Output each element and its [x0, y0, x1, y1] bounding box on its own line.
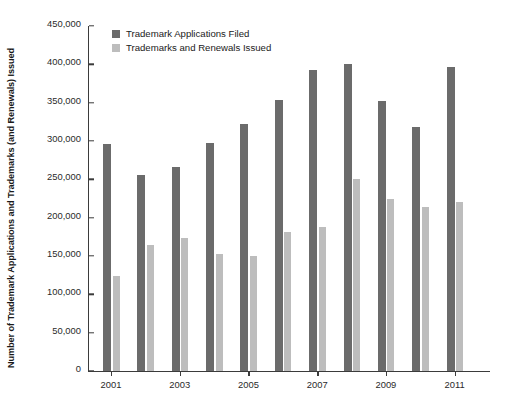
- x-tick-label: 2001: [101, 379, 122, 390]
- bar-group: [447, 26, 481, 371]
- bar-chart: Number of Trademark Applications and Tra…: [0, 0, 523, 412]
- bar-group: [412, 26, 446, 371]
- y-tick-label: 50,000: [52, 325, 81, 336]
- y-tick-label: 250,000: [47, 172, 81, 183]
- bar: [172, 167, 180, 371]
- legend-item[interactable]: Trademark Applications Filed: [112, 28, 271, 39]
- bar: [284, 232, 291, 371]
- bar: [447, 67, 455, 371]
- bar: [378, 101, 386, 371]
- bar: [412, 127, 420, 371]
- x-tick-label: 2007: [307, 379, 328, 390]
- bar-group: [206, 26, 240, 371]
- bar: [319, 227, 326, 371]
- x-tick-label: 2009: [375, 379, 396, 390]
- legend-item[interactable]: Trademarks and Renewals Issued: [112, 42, 271, 53]
- legend-swatch-icon: [112, 44, 120, 52]
- bar: [113, 276, 120, 371]
- bar: [309, 70, 317, 371]
- bar: [353, 179, 360, 371]
- bars-layer: [89, 26, 490, 371]
- bar-group: [103, 26, 137, 371]
- bar-group: [275, 26, 309, 371]
- y-tick-label: 450,000: [47, 18, 81, 29]
- bar: [181, 238, 188, 371]
- y-axis-title: Number of Trademark Applications and Tra…: [0, 12, 22, 404]
- y-tick-label: 150,000: [47, 248, 81, 259]
- bar: [206, 143, 214, 371]
- bar: [137, 175, 145, 371]
- y-tick-label: 100,000: [47, 287, 81, 298]
- bar: [275, 100, 283, 371]
- legend-label: Trademark Applications Filed: [126, 28, 249, 39]
- bar-group: [240, 26, 274, 371]
- legend-swatch-icon: [112, 30, 120, 38]
- bar: [216, 254, 223, 371]
- x-tick-label: 2005: [238, 379, 259, 390]
- bar: [147, 245, 154, 371]
- bar: [250, 256, 257, 371]
- bar: [103, 144, 111, 371]
- bar-group: [137, 26, 171, 371]
- legend-label: Trademarks and Renewals Issued: [126, 42, 271, 53]
- chart-legend: Trademark Applications FiledTrademarks a…: [112, 28, 271, 56]
- y-tick-label: 400,000: [47, 57, 81, 68]
- x-tick-label: 2003: [169, 379, 190, 390]
- bar-group: [309, 26, 343, 371]
- bar: [240, 124, 248, 371]
- y-tick-label: 200,000: [47, 210, 81, 221]
- x-tick-mark: [248, 371, 249, 376]
- bar: [422, 207, 429, 371]
- bar-group: [344, 26, 378, 371]
- x-tick-mark: [111, 371, 112, 376]
- y-tick-label: 350,000: [47, 95, 81, 106]
- bar-group: [378, 26, 412, 371]
- x-tick-mark: [386, 371, 387, 376]
- x-tick-mark: [317, 371, 318, 376]
- x-tick-mark: [180, 371, 181, 376]
- plot-area: 450,000400,000350,000300,000250,000200,0…: [88, 26, 490, 372]
- y-tick-label: 300,000: [47, 133, 81, 144]
- y-tick-label: 0: [76, 363, 81, 374]
- bar: [344, 64, 352, 371]
- bar: [456, 202, 463, 371]
- bar: [387, 199, 394, 371]
- bar-group: [172, 26, 206, 371]
- x-tick-label: 2011: [445, 379, 465, 390]
- x-tick-mark: [455, 371, 456, 376]
